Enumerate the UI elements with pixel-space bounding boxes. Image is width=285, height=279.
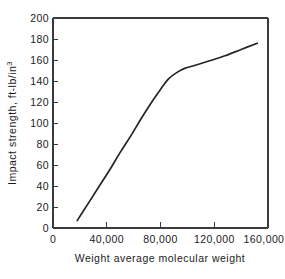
x-axis-tick-labels: 0 40,000 80,000 120,000 160,000 (50, 233, 285, 245)
y-tick-label: 140 (30, 75, 49, 87)
x-tick-label: 80,000 (143, 233, 178, 245)
svg-text:Impact strength, ft-lb/in3: Impact strength, ft-lb/in3 (5, 61, 18, 185)
x-tick-label: 40,000 (90, 233, 125, 245)
y-tick-label: 200 (30, 12, 49, 24)
y-tick-label: 180 (30, 33, 49, 45)
y-tick-label: 0 (43, 222, 49, 234)
x-tick-label: 160,000 (244, 233, 285, 245)
y-tick-label: 60 (37, 159, 49, 171)
x-axis-title: Weight average molecular weight (75, 252, 246, 264)
figure-container: 0 20 40 60 80 100 120 140 160 180 200 0 … (0, 0, 285, 279)
y-axis-ticks (53, 18, 58, 228)
impact-strength-line-chart: 0 20 40 60 80 100 120 140 160 180 200 0 … (0, 0, 285, 279)
y-tick-label: 80 (37, 138, 49, 150)
x-tick-label: 120,000 (194, 233, 235, 245)
y-tick-label: 160 (30, 54, 49, 66)
x-tick-label: 0 (50, 233, 56, 245)
data-series-line (77, 43, 257, 220)
y-tick-label: 20 (37, 201, 49, 213)
y-axis-tick-labels: 0 20 40 60 80 100 120 140 160 180 200 (30, 12, 49, 234)
y-axis-title: Impact strength, ft-lb/in3 (5, 61, 18, 185)
y-axis-title-superscript: 3 (5, 61, 14, 66)
x-axis-ticks (53, 222, 268, 228)
y-axis-title-text: Impact strength, ft-lb/in (6, 66, 18, 185)
y-tick-label: 100 (30, 117, 49, 129)
y-tick-label: 120 (30, 96, 49, 108)
y-tick-label: 40 (37, 180, 49, 192)
